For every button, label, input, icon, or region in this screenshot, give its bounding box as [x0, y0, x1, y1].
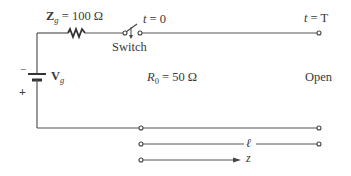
- z-axis-label: z: [246, 152, 251, 164]
- polarity-plus: +: [19, 86, 26, 98]
- polarity-minus: −: [20, 64, 26, 75]
- generator-voltage-label: Vg: [51, 70, 64, 83]
- length-marker-end: [317, 142, 321, 146]
- switch-label: Switch: [112, 41, 147, 54]
- switch-arrowhead-icon: [129, 35, 133, 39]
- line-terminal-bottom-left: [139, 126, 143, 130]
- load-terminal-bottom: [317, 126, 321, 130]
- z-axis-origin: [139, 158, 143, 162]
- generator-impedance-label: Zg = 100 Ω: [46, 10, 103, 23]
- resistor-zg-icon: [68, 29, 85, 37]
- switch-time-label: t = 0: [143, 13, 166, 26]
- circuit-schematic: [0, 0, 351, 176]
- length-marker-start: [139, 142, 143, 146]
- load-terminal-top: [317, 31, 321, 35]
- z-axis-arrowhead-icon: [233, 158, 241, 163]
- termination-label: Open: [305, 71, 332, 84]
- length-symbol: ℓ: [246, 137, 251, 149]
- characteristic-impedance-label: R0 = 50 Ω: [147, 71, 197, 84]
- switch-terminal-right: [138, 31, 142, 35]
- end-time-label: t = T: [304, 12, 328, 25]
